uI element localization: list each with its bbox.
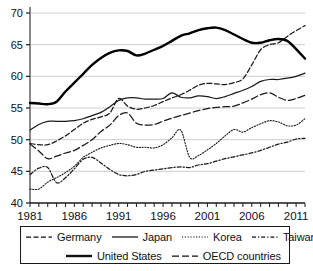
gridlines xyxy=(30,13,305,171)
series-line-japan xyxy=(30,73,305,130)
legend-swatch-dashdot xyxy=(251,232,279,241)
svg-text:70: 70 xyxy=(11,7,23,19)
legend-item-korea[interactable]: Korea xyxy=(181,231,251,243)
legend-item-oecd-countries[interactable]: OECD countries xyxy=(171,250,290,262)
svg-text:1991: 1991 xyxy=(106,210,132,222)
y-axis-tick-labels: 40455055606570 xyxy=(11,7,23,209)
svg-text:2011: 2011 xyxy=(284,210,309,222)
legend-row-1: GermanyJapanKoreaTaiwan xyxy=(21,227,289,246)
legend-row-2: United StatesOECD countries xyxy=(21,246,289,265)
legend-item-label: Germany xyxy=(53,231,111,243)
svg-text:60: 60 xyxy=(11,70,23,82)
legend-swatch-dotted xyxy=(181,232,209,241)
legend-item-united-states[interactable]: United States xyxy=(65,250,171,262)
series-line-united-states xyxy=(30,27,305,104)
svg-text:2001: 2001 xyxy=(195,210,221,222)
chart-legend: GermanyJapanKoreaTaiwan United StatesOEC… xyxy=(20,226,290,264)
legend-item-label: Korea xyxy=(209,231,251,243)
svg-text:2006: 2006 xyxy=(239,210,265,222)
axes xyxy=(30,7,305,203)
legend-item-label: OECD countries xyxy=(199,250,290,262)
chart-figure: 40455055606570 1981198619911996200120062… xyxy=(0,0,313,271)
svg-text:50: 50 xyxy=(11,134,23,146)
svg-text:1996: 1996 xyxy=(150,210,176,222)
legend-item-japan[interactable]: Japan xyxy=(111,231,181,243)
x-axis-tick-labels: 1981198619911996200120062011 xyxy=(17,210,308,222)
series-line-korea xyxy=(30,119,305,190)
legend-item-taiwan[interactable]: Taiwan xyxy=(251,231,313,243)
legend-swatch-dashed xyxy=(25,232,53,241)
svg-text:1986: 1986 xyxy=(62,210,88,222)
series-line-taiwan xyxy=(30,138,305,183)
legend-swatch-solid-thick xyxy=(65,251,93,260)
svg-text:55: 55 xyxy=(11,102,23,114)
legend-item-label: United States xyxy=(93,250,171,262)
svg-text:45: 45 xyxy=(11,165,23,177)
svg-text:40: 40 xyxy=(11,197,23,209)
svg-text:1981: 1981 xyxy=(17,210,43,222)
legend-item-germany[interactable]: Germany xyxy=(25,231,111,243)
svg-text:65: 65 xyxy=(11,39,23,51)
legend-item-label: Taiwan xyxy=(279,231,313,243)
legend-item-label: Japan xyxy=(139,231,181,243)
legend-swatch-longdash xyxy=(171,251,199,260)
legend-swatch-solid xyxy=(111,232,139,241)
